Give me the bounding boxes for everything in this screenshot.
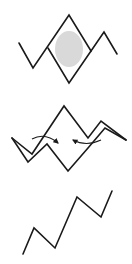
curved-arrow-left-icon	[73, 140, 101, 144]
figure-3	[23, 191, 112, 254]
zigzag-lower-line	[12, 128, 126, 171]
diagram-canvas	[0, 0, 132, 264]
shaded-oval	[55, 31, 83, 67]
curved-arrow-right-icon	[32, 136, 58, 143]
figure-1	[19, 15, 117, 83]
ascending-zigzag-line	[23, 191, 112, 254]
figure-2	[12, 106, 126, 171]
